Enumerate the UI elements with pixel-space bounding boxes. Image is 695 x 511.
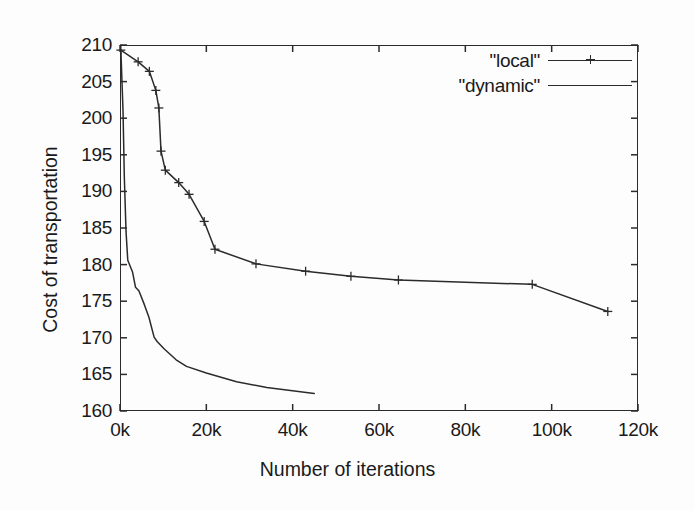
x-tick-label: 20k xyxy=(171,420,241,439)
y-tick-label: 205 xyxy=(64,72,112,91)
y-tick-label: 180 xyxy=(64,255,112,274)
x-axis-tick-labels: 0k20k40k60k80k100k120k xyxy=(0,420,695,450)
x-tick-label: 60k xyxy=(344,420,414,439)
y-tick-label: 190 xyxy=(64,181,112,200)
y-tick-label: 170 xyxy=(64,328,112,347)
y-tick-label: 200 xyxy=(64,108,112,127)
x-axis-title: Number of iterations xyxy=(0,458,695,481)
legend-line-sample-local xyxy=(548,53,632,69)
legend-label-dynamic: "dynamic" xyxy=(458,75,548,97)
x-tick-label: 0k xyxy=(85,420,155,439)
legend-item: "dynamic" xyxy=(392,73,632,98)
x-tick-label: 100k xyxy=(517,420,587,439)
plus-marker-icon xyxy=(586,55,595,64)
y-tick-label: 195 xyxy=(64,145,112,164)
y-tick-label: 175 xyxy=(64,291,112,310)
y-tick-label: 185 xyxy=(64,218,112,237)
x-tick-label: 120k xyxy=(603,420,673,439)
y-tick-label: 210 xyxy=(64,35,112,54)
legend-label-local: "local" xyxy=(490,50,548,72)
legend-line-sample-dynamic xyxy=(548,78,632,94)
y-axis-title: Cost of transportation xyxy=(39,30,62,450)
y-tick-label: 160 xyxy=(64,401,112,420)
chart-legend: "local" "dynamic" xyxy=(392,48,632,98)
legend-line-icon xyxy=(548,85,632,86)
chart-figure: 210205200195190185180175170165160 0k20k4… xyxy=(0,0,695,511)
x-tick-label: 80k xyxy=(430,420,500,439)
y-tick-label: 165 xyxy=(64,364,112,383)
x-tick-label: 40k xyxy=(258,420,328,439)
legend-item: "local" xyxy=(392,48,632,73)
